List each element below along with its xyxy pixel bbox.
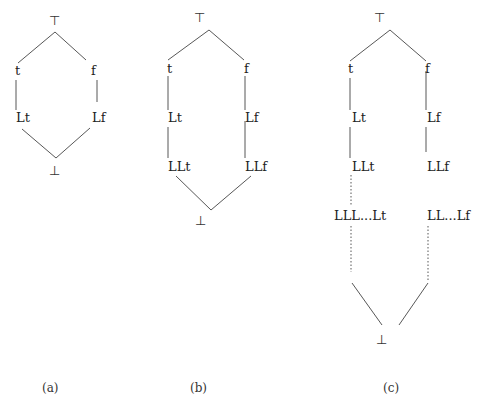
bottom-node: ⊥ [195, 213, 206, 228]
edge [168, 30, 209, 60]
diagram-c: ⊤ t f Lt Lf LLt LLf LLL...Lt LL...Lf ⊥ (… [334, 10, 471, 395]
node-Lt: Lt [352, 110, 367, 125]
edge [55, 32, 86, 60]
caption-b: (b) [190, 381, 207, 395]
edge [390, 30, 426, 61]
node-f: f [91, 63, 97, 78]
edge [209, 30, 244, 60]
lattice-diagrams: ⊤ t f Lt Lf ⊥ (a) ⊤ t f Lt Lf LLt LLf ⊥ … [0, 0, 485, 415]
top-node: ⊤ [194, 10, 205, 25]
edge [211, 176, 251, 210]
top-node: ⊤ [49, 13, 60, 28]
node-LLt: LLt [168, 159, 191, 174]
node-Lt: Lt [168, 110, 183, 125]
edge [176, 176, 211, 210]
diagram-a: ⊤ t f Lt Lf ⊥ (a) [15, 13, 107, 395]
caption-a: (a) [42, 381, 59, 395]
node-LL-Lf: LL...Lf [427, 208, 471, 223]
node-LLt: LLt [352, 159, 375, 174]
caption-c: (c) [383, 381, 399, 395]
node-Lf: Lf [92, 110, 107, 125]
bottom-node: ⊥ [49, 163, 60, 178]
edge [399, 283, 428, 325]
node-LLf: LLf [245, 159, 268, 174]
node-Lf: Lf [427, 110, 442, 125]
top-node: ⊤ [374, 10, 385, 25]
bottom-node: ⊥ [376, 332, 387, 347]
node-Lt: Lt [16, 110, 31, 125]
node-LLL-Lt: LLL...Lt [334, 208, 387, 223]
edge [18, 32, 55, 63]
node-Lf: Lf [245, 110, 260, 125]
node-t: t [348, 61, 354, 76]
node-f: f [244, 61, 250, 76]
edge [350, 30, 390, 61]
diagram-b: ⊤ t f Lt Lf LLt LLf ⊥ (b) [167, 10, 268, 395]
edge [56, 128, 90, 158]
node-t: t [167, 61, 173, 76]
node-LLf: LLf [427, 159, 450, 174]
edge [22, 129, 56, 158]
edge [352, 283, 382, 325]
node-t: t [15, 63, 21, 78]
